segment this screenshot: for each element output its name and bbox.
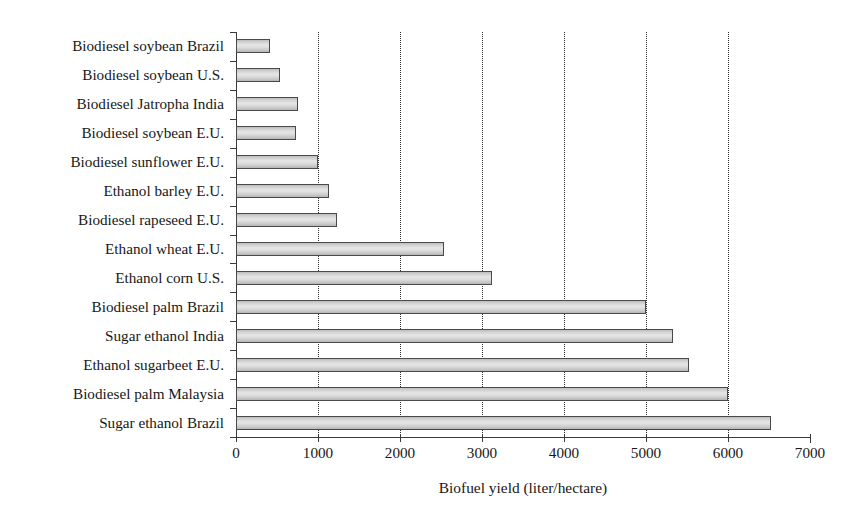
y-axis-label: Biodiesel palm Malaysia <box>0 386 224 402</box>
plot-area: 01000200030004000500060007000 <box>236 32 810 437</box>
y-axis-label: Sugar ethanol India <box>0 328 224 344</box>
bar <box>236 97 298 111</box>
y-tick-2 <box>230 90 237 91</box>
x-axis-spine <box>236 437 811 438</box>
y-tick-11 <box>230 350 237 351</box>
gridline-1000 <box>318 32 319 437</box>
x-tick-6000 <box>728 434 729 442</box>
y-tick-12 <box>230 379 237 380</box>
y-tick-3 <box>230 119 237 120</box>
y-axis-label: Biodiesel Jatropha India <box>0 96 224 112</box>
y-axis-label: Biodiesel palm Brazil <box>0 299 224 315</box>
x-tick-5000 <box>646 434 647 442</box>
y-tick-4 <box>230 148 237 149</box>
bar <box>236 242 444 256</box>
x-tick-7000 <box>810 434 811 442</box>
biofuel-yield-bar-chart: Biodiesel soybean BrazilBiodiesel soybea… <box>0 0 868 517</box>
gridline-3000 <box>482 32 483 437</box>
x-axis-title: Biofuel yield (liter/hectare) <box>236 478 810 498</box>
x-tick-0 <box>236 434 237 442</box>
x-tick-2000 <box>400 434 401 442</box>
y-tick-9 <box>230 292 237 293</box>
bar <box>236 39 270 53</box>
y-axis-label: Biodiesel sunflower E.U. <box>0 154 224 170</box>
gridline-5000 <box>646 32 647 437</box>
bar <box>236 126 296 140</box>
x-tick-label-0: 0 <box>196 444 276 462</box>
bar <box>236 300 646 314</box>
x-tick-1000 <box>318 434 319 442</box>
bar <box>236 358 689 372</box>
x-tick-4000 <box>564 434 565 442</box>
x-tick-label-3000: 3000 <box>442 444 522 462</box>
y-axis-label: Ethanol barley E.U. <box>0 183 224 199</box>
y-tick-8 <box>230 263 237 264</box>
bar <box>236 184 329 198</box>
bar <box>236 387 728 401</box>
bar <box>236 213 337 227</box>
x-tick-label-4000: 4000 <box>524 444 604 462</box>
bar <box>236 329 673 343</box>
gridline-4000 <box>564 32 565 437</box>
y-tick-13 <box>230 408 237 409</box>
x-tick-label-5000: 5000 <box>606 444 686 462</box>
bar <box>236 68 280 82</box>
y-axis-label: Ethanol wheat E.U. <box>0 241 224 257</box>
y-axis-label: Ethanol corn U.S. <box>0 270 224 286</box>
x-tick-3000 <box>482 434 483 442</box>
x-tick-label-2000: 2000 <box>360 444 440 462</box>
y-axis-label: Ethanol sugarbeet E.U. <box>0 357 224 373</box>
y-axis-label: Biodiesel soybean E.U. <box>0 125 224 141</box>
y-tick-0 <box>230 32 237 33</box>
x-tick-label-6000: 6000 <box>688 444 768 462</box>
gridline-2000 <box>400 32 401 437</box>
y-tick-6 <box>230 206 237 207</box>
y-tick-5 <box>230 177 237 178</box>
y-axis-label: Biodiesel rapeseed E.U. <box>0 212 224 228</box>
x-tick-label-1000: 1000 <box>278 444 358 462</box>
y-tick-1 <box>230 61 237 62</box>
y-axis-label: Sugar ethanol Brazil <box>0 415 224 431</box>
y-axis-label: Biodiesel soybean Brazil <box>0 38 224 54</box>
y-tick-10 <box>230 321 237 322</box>
bar <box>236 155 318 169</box>
y-axis-category-labels: Biodiesel soybean BrazilBiodiesel soybea… <box>0 32 230 437</box>
y-tick-7 <box>230 235 237 236</box>
x-tick-label-7000: 7000 <box>770 444 850 462</box>
gridline-6000 <box>728 32 729 437</box>
bar <box>236 271 492 285</box>
y-axis-label: Biodiesel soybean U.S. <box>0 67 224 83</box>
bar <box>236 416 771 430</box>
